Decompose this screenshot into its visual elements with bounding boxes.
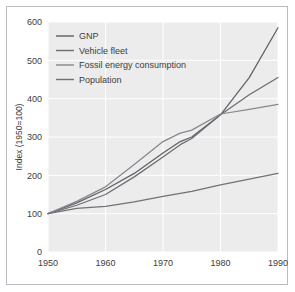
legend-label-gnp: GNP xyxy=(79,31,99,41)
x-tick-label: 1970 xyxy=(153,258,173,268)
x-tick-label: 1950 xyxy=(38,258,58,268)
legend-label-population: Population xyxy=(79,75,122,85)
y-tick-label: 500 xyxy=(27,56,42,66)
y-tick-label: 0 xyxy=(37,247,42,257)
y-tick-label: 600 xyxy=(27,17,42,27)
legend-label-fossil-energy-consumption: Fossil energy consumption xyxy=(79,60,186,70)
x-tick-label: 1960 xyxy=(95,258,115,268)
y-tick-label: 200 xyxy=(27,171,42,181)
y-tick-label: 400 xyxy=(27,94,42,104)
x-tick-label: 1990 xyxy=(268,258,288,268)
y-tick-label: 100 xyxy=(27,209,42,219)
y-axis-tick-labels: 0100200300400500600 xyxy=(27,17,42,257)
x-axis-tick-labels: 19501960197019801990 xyxy=(38,258,288,268)
legend-label-vehicle-fleet: Vehicle fleet xyxy=(79,46,128,56)
x-tick-label: 1980 xyxy=(210,258,230,268)
y-tick-label: 300 xyxy=(27,132,42,142)
line-chart: 0100200300400500600 19501960197019801990… xyxy=(0,0,295,292)
chart-figure: 0100200300400500600 19501960197019801990… xyxy=(0,0,295,292)
y-axis-title: Index (1950=100) xyxy=(14,103,24,170)
